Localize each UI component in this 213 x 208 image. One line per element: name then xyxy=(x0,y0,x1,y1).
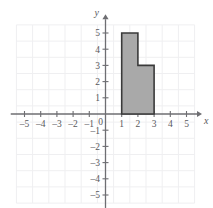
x-tick-label: –5 xyxy=(19,119,30,129)
shaded-polygon-region xyxy=(122,33,154,114)
x-tick-label: 1 xyxy=(119,119,124,129)
y-axis-arrowhead xyxy=(102,14,108,19)
x-axis-name-label: x xyxy=(203,115,209,126)
y-tick-label: –2 xyxy=(90,142,101,152)
shaded-region-polygon xyxy=(122,33,154,114)
x-tick-label: 4 xyxy=(168,119,173,129)
y-tick-label: 4 xyxy=(95,45,100,55)
coordinate-plane-svg: –5–4–3–2–112345–5–4–3–2–1123450 xy xyxy=(0,0,213,208)
x-tick-label: –4 xyxy=(35,119,46,129)
x-tick-label: 5 xyxy=(184,119,189,129)
y-tick-label: 5 xyxy=(95,28,100,38)
y-tick-label: –3 xyxy=(90,158,101,168)
x-tick-label: 3 xyxy=(152,119,157,129)
x-tick-label: –2 xyxy=(67,119,78,129)
coordinate-plane-figure: –5–4–3–2–112345–5–4–3–2–1123450 xy xyxy=(0,0,213,208)
y-tick-label: 3 xyxy=(95,61,100,71)
x-tick-label: 2 xyxy=(136,119,141,129)
y-tick-label: –4 xyxy=(90,174,101,184)
x-tick-label: –3 xyxy=(51,119,62,129)
origin-label: 0 xyxy=(98,117,103,127)
y-tick-label: 2 xyxy=(95,77,100,87)
y-axis-name-label: y xyxy=(94,7,100,18)
y-tick-label: 1 xyxy=(95,93,100,103)
x-axis-arrowhead xyxy=(197,111,202,117)
y-tick-label: –5 xyxy=(90,190,101,200)
y-tick-label: –1 xyxy=(90,126,101,136)
